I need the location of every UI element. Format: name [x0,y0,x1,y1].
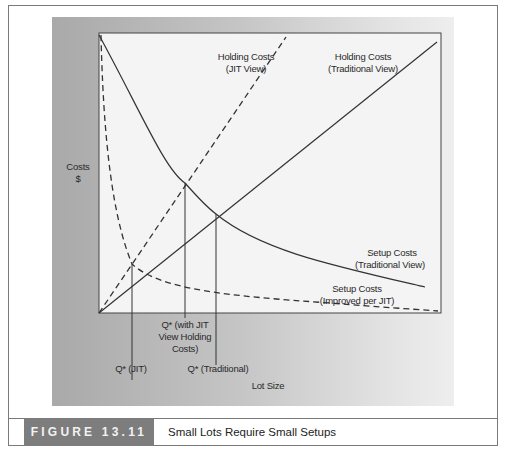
holding-trad-label-1: Holding Costs [335,51,392,62]
x-axis-label: Lot Size [252,380,285,391]
figure-caption-bar: FIGURE 13.11 Small Lots Require Small Se… [8,418,498,446]
setup-jit-label-2: (Improved per JIT) [320,295,395,306]
setup-trad-label-1: Setup Costs [367,247,417,258]
figure-title: Small Lots Require Small Setups [168,419,336,446]
q-with-jit-label-1: Q* (with JIT [161,319,209,330]
q-with-jit-label-2: View Holding [159,331,212,342]
holding-trad-label-2: (Traditional View) [328,63,398,74]
y-axis-label: Costs [66,161,90,172]
q-trad-label: Q* (Traditional) [188,363,249,374]
holding-jit-label-2: (JIT View) [226,63,266,74]
holding-jit-label-1: Holding Costs [218,51,275,62]
cost-chart: Costs $ Holding Costs (JIT View) Holding… [0,0,507,459]
y-axis-unit: $ [75,173,81,184]
q-jit-label: Q* (JIT) [115,363,147,374]
q-with-jit-label-3: Costs) [172,343,198,354]
plot-area [99,33,441,313]
setup-trad-label-2: (Traditional View) [355,259,425,270]
figure-number-badge: FIGURE 13.11 [24,419,154,446]
setup-jit-label-1: Setup Costs [332,283,382,294]
